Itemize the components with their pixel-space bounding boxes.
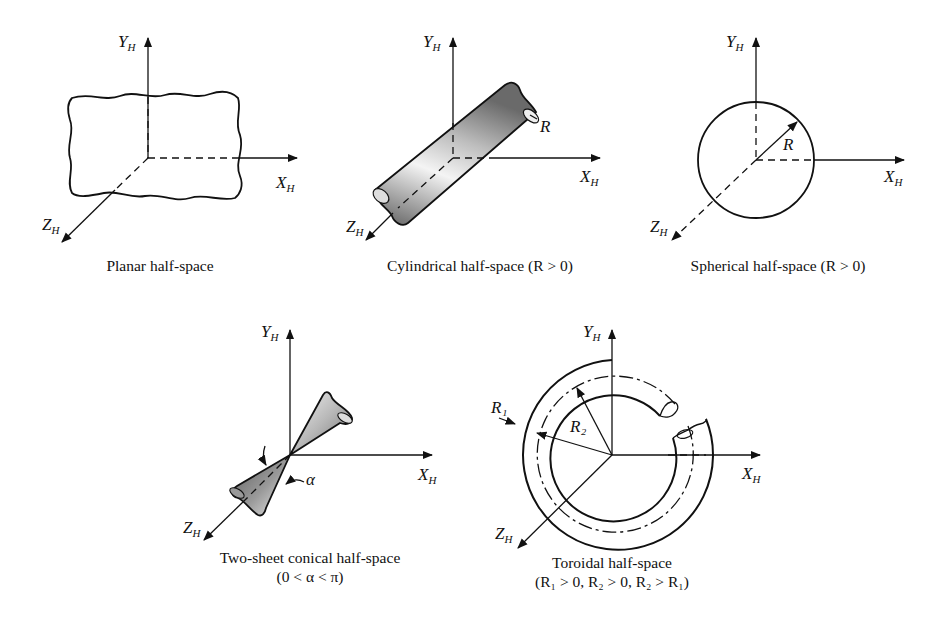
r2-label: R₂: [569, 417, 586, 436]
svg-text:XH: XH: [417, 465, 437, 486]
conical-caption-condition: (0 < α < π): [276, 568, 343, 586]
toroidal-caption-condition: (R₁ > 0, R₂ > 0, R₂ > R₁): [535, 573, 689, 591]
spherical-caption: Spherical half-space (R > 0): [691, 257, 866, 275]
svg-text:ZH: ZH: [495, 524, 513, 545]
radius-label: R: [782, 135, 794, 154]
z-axis: [62, 190, 115, 242]
svg-text:XH: XH: [883, 167, 903, 188]
z-axis-label: ZH: [42, 215, 60, 236]
planar-surface: [68, 92, 241, 200]
svg-text:ZH: ZH: [650, 217, 668, 238]
upper-cone: [290, 392, 352, 455]
svg-text:ZH: ZH: [183, 518, 201, 539]
angle-arc-lower: [286, 480, 304, 484]
svg-text:YH: YH: [726, 32, 744, 53]
torus-inner-edge: [550, 395, 676, 521]
cylinder-surface: [375, 83, 536, 225]
toroidal-panel: YH XH ZH R₁ R₂ Toroidal half-space (R₁ >…: [490, 322, 761, 591]
angle-arc-upper: [263, 446, 266, 465]
cylindrical-caption: Cylindrical half-space (R > 0): [387, 257, 573, 275]
svg-text:XH: XH: [579, 167, 599, 188]
conical-panel: YH XH ZH α Two-sheet conical half-space …: [183, 322, 437, 586]
spherical-panel: YH XH ZH R Spherical half-space (R > 0): [650, 32, 904, 275]
svg-text:YH: YH: [583, 322, 601, 343]
toroidal-caption: Toroidal half-space: [552, 554, 672, 571]
y-axis-label: YH: [118, 32, 136, 53]
svg-text:YH: YH: [423, 32, 441, 53]
svg-text:ZH: ZH: [346, 217, 364, 238]
radius-label: R: [539, 117, 551, 136]
conical-caption: Two-sheet conical half-space: [220, 549, 401, 566]
r1-arrow: [537, 433, 612, 455]
x-axis-label: XH: [275, 173, 295, 194]
cylindrical-panel: YH XH ZH R Cylindrical half-space (R > 0…: [346, 32, 600, 275]
planar-caption: Planar half-space: [106, 257, 213, 274]
planar-panel: YH XH ZH Planar half-space: [42, 32, 297, 274]
half-space-diagram: YH XH ZH Planar half-space YH XH ZH R Cy…: [0, 0, 942, 618]
torus-center-circle: [537, 376, 693, 532]
r1-label: R₁: [490, 398, 507, 417]
alpha-label: α: [306, 470, 316, 489]
svg-text:XH: XH: [741, 464, 761, 485]
svg-text:YH: YH: [261, 322, 279, 343]
